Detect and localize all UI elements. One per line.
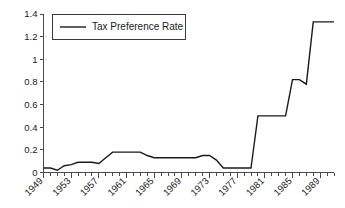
legend-label-tax-preference-rate: Tax Preference Rate <box>92 21 184 32</box>
y-tick-label-1: 1 <box>32 54 37 65</box>
y-tick-label-1.2: 1.2 <box>24 31 37 42</box>
y-tick-label-0.4: 0.4 <box>24 122 37 133</box>
y-tick-label-1.4: 1.4 <box>24 8 37 19</box>
legend: Tax Preference Rate <box>53 15 186 40</box>
y-tick-label-0.6: 0.6 <box>24 99 37 110</box>
tax-preference-rate-line-chart: 00.20.40.60.811.21.4 1949195319571961196… <box>0 0 345 208</box>
chart-container: 00.20.40.60.811.21.4 1949195319571961196… <box>0 0 345 208</box>
y-tick-label-0.8: 0.8 <box>24 76 37 87</box>
y-tick-label-0.2: 0.2 <box>24 144 37 155</box>
